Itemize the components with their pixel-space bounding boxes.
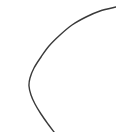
figure-canvas-container: 4. bbox=[0, 0, 116, 132]
figure-background bbox=[0, 0, 116, 132]
figure-drawing-svg bbox=[0, 0, 116, 132]
